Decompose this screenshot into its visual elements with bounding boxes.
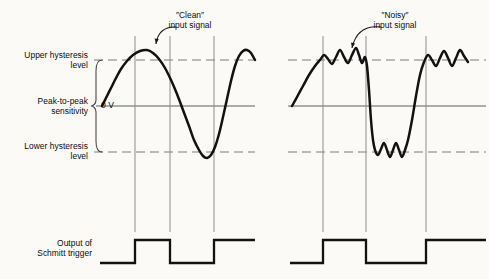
callout-arrowhead-noisy-input-signal — [351, 43, 355, 49]
upper-hysteresis-label: Upper hysteresis level — [8, 50, 88, 71]
zero-volts-label: 0 V — [101, 100, 127, 110]
noisy-input-signal-label: ″Noisy″ input signal — [360, 10, 430, 31]
output-of-schmitt-trigger-label: Output of Schmitt trigger — [10, 238, 92, 259]
schmitt-trigger-diagram: Upper hysteresis level Peak-to-peak sens… — [0, 0, 489, 279]
output-waveform-clean — [100, 240, 255, 263]
clean-input-signal-label: ″Clean″ input signal — [155, 10, 225, 31]
callout-arrowhead-clean-input-signal — [155, 39, 159, 44]
output-waveform-noisy — [290, 240, 486, 263]
peak-to-peak-sensitivity-label: Peak-to-peak sensitivity — [8, 96, 88, 117]
lower-hysteresis-label: Lower hysteresis level — [8, 141, 88, 162]
input-signal-trace-noisy — [292, 48, 468, 157]
